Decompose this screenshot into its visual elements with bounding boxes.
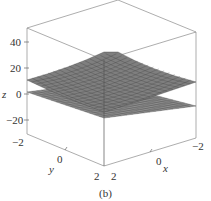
z-ticks — [24, 42, 29, 120]
figure-caption: (b) — [0, 187, 211, 199]
y-tick-m2: −2 — [12, 137, 24, 148]
x-tick-0: 0 — [156, 156, 162, 167]
z-tick-m20: −20 — [6, 115, 23, 126]
x-axis-label: x — [163, 163, 168, 174]
z-tick-0: 0 — [16, 89, 22, 100]
xy-ticks — [65, 147, 152, 152]
x-tick-m2: −2 — [192, 141, 204, 152]
y-axis-label: y — [49, 164, 54, 175]
y-tick-2: 2 — [94, 171, 100, 182]
surface-plot — [0, 0, 211, 201]
z-tick-20: 20 — [10, 63, 21, 74]
z-axis-label: z — [2, 89, 6, 100]
z-tick-40: 40 — [10, 37, 21, 48]
x-tick-2: 2 — [111, 171, 117, 182]
y-tick-0: 0 — [57, 154, 63, 165]
